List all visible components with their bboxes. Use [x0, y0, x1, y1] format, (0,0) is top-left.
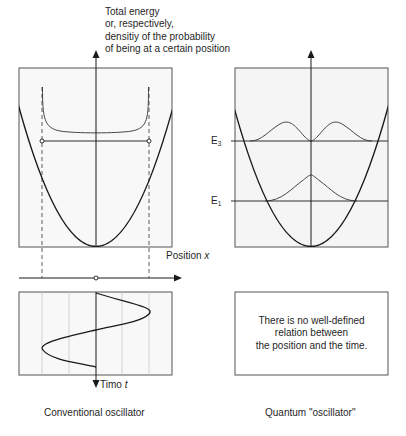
energy-label-e1: E1	[211, 195, 221, 210]
classical-time-panel	[19, 292, 172, 388]
y-axis-title-line: or, respectively,	[105, 18, 230, 30]
arrow-right-icon	[174, 275, 182, 282]
y-axis-title-line: densitiy of the probability	[105, 31, 230, 43]
energy-subscript: 1	[218, 200, 222, 207]
energy-symbol: E	[211, 135, 218, 146]
quantum-energy-panel	[227, 50, 395, 247]
turning-point-left-marker	[40, 139, 44, 143]
origin-marker	[94, 276, 98, 280]
y-axis-title-line: Total energy	[105, 6, 230, 18]
note-line: There is no well-defined	[258, 315, 364, 328]
position-axis	[19, 275, 182, 282]
turning-point-right-marker	[147, 139, 151, 143]
caption-quantum: Quantum "oscillator"	[265, 407, 355, 419]
quantum-note: There is no well-defined relation betwee…	[235, 292, 388, 375]
y-axis-title-line: of being at a certain position	[105, 43, 230, 55]
caption-conventional: Conventional oscillator	[44, 407, 145, 419]
time-label-var: t	[125, 379, 128, 390]
y-axis-title: Total energy or, respectively, densitiy …	[105, 6, 230, 55]
arrow-down-icon	[93, 380, 100, 388]
energy-label-e3: E3	[211, 135, 221, 150]
note-line: relation between	[275, 327, 348, 340]
arrow-up-icon	[93, 50, 100, 58]
time-label-text: Timo	[100, 379, 125, 390]
energy-subscript: 3	[218, 140, 222, 147]
position-label-var: x	[204, 250, 209, 261]
classical-energy-panel	[12, 50, 180, 278]
position-axis-label: Position x	[166, 250, 209, 262]
note-line: the position and the time.	[256, 340, 368, 353]
time-axis-label: Timo t	[100, 379, 127, 391]
position-label-text: Position	[166, 250, 204, 261]
energy-symbol: E	[211, 195, 218, 206]
arrow-up-icon	[308, 50, 315, 58]
